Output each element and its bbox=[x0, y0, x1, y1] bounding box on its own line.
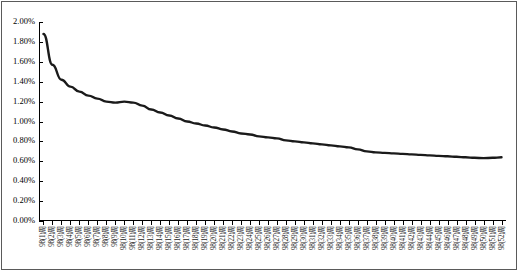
x-axis-tick-label: 98(6)周 bbox=[85, 226, 92, 247]
y-axis-tick-label: 1.40% bbox=[2, 77, 35, 86]
x-axis-tick bbox=[403, 221, 404, 225]
x-axis-tick-label: 98(33)周 bbox=[327, 226, 334, 250]
x-axis-tick bbox=[358, 221, 359, 225]
x-axis-tick bbox=[367, 221, 368, 225]
x-axis-tick-label: 98(15)周 bbox=[166, 226, 173, 250]
x-axis-tick-label: 98(31)周 bbox=[309, 226, 316, 250]
y-axis-tick bbox=[39, 62, 43, 63]
x-axis-tick bbox=[196, 221, 197, 225]
x-axis-tick-label: 98(13)周 bbox=[148, 226, 155, 250]
x-axis-tick-label: 98(2)周 bbox=[49, 226, 56, 247]
x-axis-tick bbox=[178, 221, 179, 225]
x-axis-tick bbox=[421, 221, 422, 225]
x-axis-tick-label: 98(22)周 bbox=[229, 226, 236, 250]
x-axis-tick-label: 98(51)周 bbox=[489, 226, 496, 250]
x-axis-tick-label: 98(47)周 bbox=[453, 226, 460, 250]
x-axis-tick bbox=[61, 221, 62, 225]
x-axis-tick bbox=[142, 221, 143, 225]
x-axis-tick bbox=[304, 221, 305, 225]
y-axis-tick bbox=[39, 102, 43, 103]
x-axis: 98(1)周98(2)周98(3)周98(4)周98(5)周98(6)周98(7… bbox=[39, 221, 506, 269]
y-axis-tick bbox=[39, 201, 43, 202]
x-axis-tick-label: 98(9)周 bbox=[112, 226, 119, 247]
x-axis-tick-label: 98(19)周 bbox=[202, 226, 209, 250]
x-axis-tick bbox=[385, 221, 386, 225]
y-axis-tick-label: 0.60% bbox=[2, 156, 35, 165]
x-axis-tick bbox=[502, 221, 503, 225]
x-axis-tick-label: 98(30)周 bbox=[300, 226, 307, 250]
x-axis-tick-label: 98(49)周 bbox=[471, 226, 478, 250]
x-axis-tick-label: 98(36)周 bbox=[354, 226, 361, 250]
x-axis-tick bbox=[115, 221, 116, 225]
x-axis-tick bbox=[313, 221, 314, 225]
y-axis-tick bbox=[39, 181, 43, 182]
x-axis-tick bbox=[43, 221, 44, 225]
x-axis-tick bbox=[475, 221, 476, 225]
x-axis-tick bbox=[106, 221, 107, 225]
x-axis-tick-label: 98(24)周 bbox=[247, 226, 254, 250]
x-axis-tick-label: 98(52)周 bbox=[498, 226, 505, 250]
x-axis-tick bbox=[97, 221, 98, 225]
y-axis-tick-label: 0.20% bbox=[2, 196, 35, 205]
x-axis-tick bbox=[214, 221, 215, 225]
x-axis-tick bbox=[394, 221, 395, 225]
x-axis-tick bbox=[349, 221, 350, 225]
line-series-path bbox=[39, 22, 506, 221]
x-axis-tick bbox=[376, 221, 377, 225]
x-axis-tick bbox=[259, 221, 260, 225]
x-axis-tick bbox=[124, 221, 125, 225]
x-axis-tick-label: 98(26)周 bbox=[265, 226, 272, 250]
x-axis-tick bbox=[169, 221, 170, 225]
x-axis-tick bbox=[241, 221, 242, 225]
y-axis-tick-label: 1.00% bbox=[2, 117, 35, 126]
x-axis-tick bbox=[88, 221, 89, 225]
x-axis-tick bbox=[457, 221, 458, 225]
x-axis-tick-label: 98(38)周 bbox=[372, 226, 379, 250]
x-axis-tick-label: 98(20)周 bbox=[211, 226, 218, 250]
y-axis-tick bbox=[39, 141, 43, 142]
x-axis-tick bbox=[295, 221, 296, 225]
x-axis-tick bbox=[250, 221, 251, 225]
x-axis-tick-label: 98(1)周 bbox=[40, 226, 47, 247]
x-axis-tick-label: 98(4)周 bbox=[67, 226, 74, 247]
x-axis-tick-label: 98(5)周 bbox=[76, 226, 83, 247]
x-axis-tick bbox=[331, 221, 332, 225]
x-axis-tick-label: 98(25)周 bbox=[256, 226, 263, 250]
x-axis-tick-label: 98(3)周 bbox=[58, 226, 65, 247]
x-axis-tick-label: 98(21)周 bbox=[220, 226, 227, 250]
x-axis-tick bbox=[160, 221, 161, 225]
y-axis-tick bbox=[39, 161, 43, 162]
x-axis-tick bbox=[187, 221, 188, 225]
x-axis-tick bbox=[286, 221, 287, 225]
y-axis-tick-label: 1.60% bbox=[2, 57, 35, 66]
x-axis-tick bbox=[430, 221, 431, 225]
x-axis-tick-label: 98(7)周 bbox=[94, 226, 101, 247]
y-axis-tick-label: 1.20% bbox=[2, 97, 35, 106]
y-axis-tick bbox=[39, 122, 43, 123]
x-axis-tick-label: 98(45)周 bbox=[435, 226, 442, 250]
x-axis-tick-label: 98(18)周 bbox=[193, 226, 200, 250]
y-axis-tick bbox=[39, 42, 43, 43]
y-axis-tick bbox=[39, 221, 43, 222]
y-axis-tick-label: 0.80% bbox=[2, 136, 35, 145]
x-axis-tick bbox=[277, 221, 278, 225]
x-axis-tick-label: 98(42)周 bbox=[408, 226, 415, 250]
x-axis-tick-label: 98(28)周 bbox=[282, 226, 289, 250]
y-axis-tick-label: 1.80% bbox=[2, 37, 35, 46]
x-axis-tick bbox=[79, 221, 80, 225]
x-axis-tick bbox=[412, 221, 413, 225]
x-axis-tick bbox=[439, 221, 440, 225]
x-axis-tick-label: 98(44)周 bbox=[426, 226, 433, 250]
x-axis-tick-label: 98(12)周 bbox=[139, 226, 146, 250]
x-axis-tick bbox=[205, 221, 206, 225]
x-axis-tick bbox=[493, 221, 494, 225]
x-axis-tick bbox=[70, 221, 71, 225]
x-axis-tick-label: 98(35)周 bbox=[345, 226, 352, 250]
x-axis-tick bbox=[484, 221, 485, 225]
chart-outer-frame: 98(1)周98(2)周98(3)周98(4)周98(5)周98(6)周98(7… bbox=[1, 1, 517, 270]
y-axis-tick-label: 0.00% bbox=[2, 216, 35, 225]
y-axis-tick bbox=[39, 22, 43, 23]
y-axis-tick-label: 2.00% bbox=[2, 17, 35, 26]
x-axis-tick-label: 98(50)周 bbox=[480, 226, 487, 250]
plot-area bbox=[39, 22, 506, 221]
